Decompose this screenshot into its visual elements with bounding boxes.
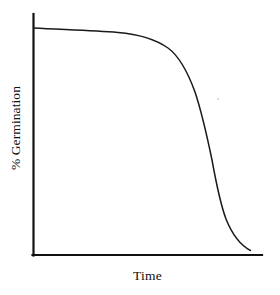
germination-curve: [34, 28, 251, 251]
scan-speck: [217, 98, 219, 100]
chart-canvas: [0, 0, 280, 295]
germination-time-chart: % Germination Time: [0, 0, 280, 295]
x-axis-label: Time: [33, 268, 262, 284]
